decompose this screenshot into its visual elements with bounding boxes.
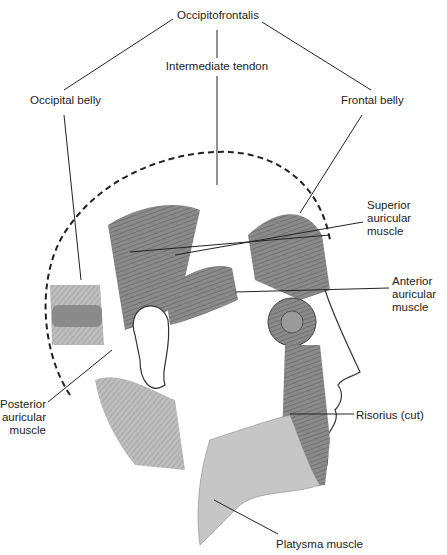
head-illustration [0,0,447,555]
label-posterior-auricular-muscle: Posterior auricular muscle [0,398,46,437]
ear [133,306,169,388]
label-occipital-belly: Occipital belly [30,94,101,107]
label-anterior-auricular-muscle: Anterior auricular muscle [392,275,436,314]
label-frontal-belly: Frontal belly [341,94,404,107]
label-superior-auricular-muscle: Superior auricular muscle [367,199,411,238]
anatomy-diagram: Occipitofrontalis Intermediate tendon Oc… [0,0,447,555]
frontal-belly-shape [248,214,330,300]
label-platysma-muscle: Platysma muscle [276,538,363,551]
label-risorius: Risorius (cut) [356,409,424,422]
label-intermediate-tendon: Intermediate tendon [160,60,274,73]
label-occipitofrontalis: Occipitofrontalis [168,9,268,22]
